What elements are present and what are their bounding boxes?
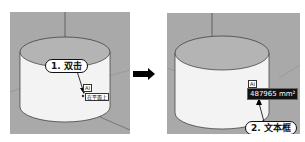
cylinder-scene bbox=[10, 12, 130, 134]
ai-label-tag: AI bbox=[83, 84, 92, 92]
viewport-after: AI 487965 mm² 2. 文本框 bbox=[167, 13, 300, 134]
text-box[interactable]: 487965 mm² bbox=[247, 88, 298, 100]
right-arrow-icon bbox=[133, 68, 155, 80]
ai-label-tag: AI bbox=[248, 80, 257, 88]
double-click-callout: 1. 双击 bbox=[45, 59, 88, 73]
on-face-tooltip: 在平面上 bbox=[85, 93, 109, 101]
viewport-before: 1. 双击 AI 在平面上 bbox=[10, 12, 130, 134]
cylinder-scene bbox=[167, 13, 300, 134]
text-box-callout: 2. 文本框 bbox=[245, 121, 297, 134]
